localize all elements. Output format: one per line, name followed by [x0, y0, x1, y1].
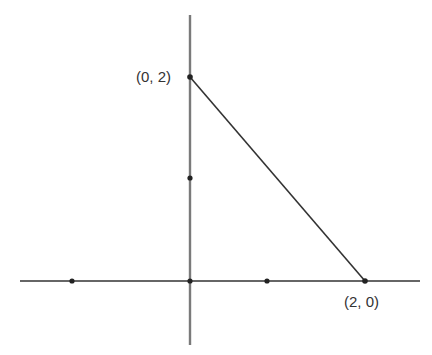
- line-segment-0-2-to-2-0: [190, 77, 365, 281]
- y-tick-1-dot: [187, 175, 192, 180]
- label-point-2-0: (2, 0): [344, 293, 379, 310]
- label-point-0-2: (0, 2): [136, 68, 171, 85]
- point-2-0-dot: [362, 278, 368, 284]
- x-tick-1-dot: [264, 278, 269, 283]
- origin-dot: [187, 278, 192, 283]
- point-0-2-dot: [187, 74, 193, 80]
- coordinate-plane: (0, 2) (2, 0): [0, 0, 432, 355]
- x-tick-left-dot: [69, 278, 74, 283]
